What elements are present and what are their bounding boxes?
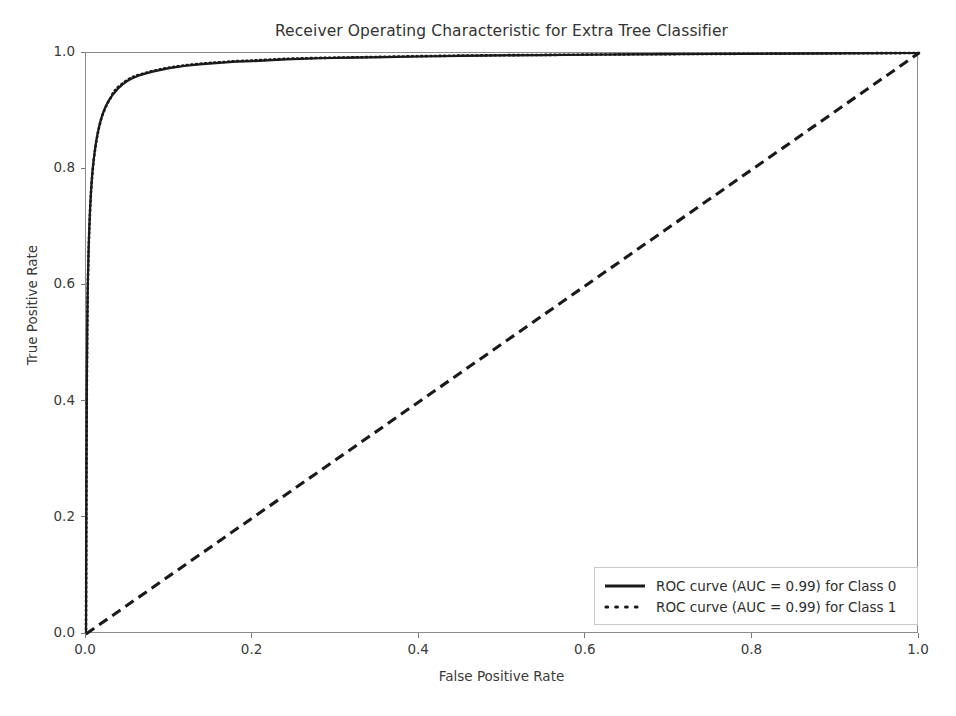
y-tick-mark: [81, 168, 86, 169]
x-tick-mark: [418, 633, 419, 638]
y-tick-mark: [81, 52, 86, 53]
chance-diagonal-group: [86, 53, 919, 634]
x-tick-label: 0.2: [222, 641, 282, 657]
chart-title: Receiver Operating Characteristic for Ex…: [85, 22, 918, 40]
y-tick-label: 0.2: [19, 508, 75, 524]
x-tick-mark: [751, 633, 752, 638]
x-tick-label: 0.8: [721, 641, 781, 657]
x-tick-label: 0.6: [555, 641, 615, 657]
x-tick-mark: [918, 633, 919, 638]
plot-axes-frame: [85, 52, 918, 633]
x-tick-mark: [584, 633, 585, 638]
legend-label-class-0: ROC curve (AUC = 0.99) for Class 0: [656, 578, 896, 594]
y-tick-label: 0.8: [19, 159, 75, 175]
plot-canvas: [86, 53, 919, 634]
legend-label-class-1: ROC curve (AUC = 0.99) for Class 1: [656, 599, 896, 615]
x-tick-label: 1.0: [888, 641, 948, 657]
y-tick-mark: [81, 400, 86, 401]
roc-chart-figure: Receiver Operating Characteristic for Ex…: [0, 0, 956, 716]
chart-legend: ROC curve (AUC = 0.99) for Class 0 ROC c…: [594, 567, 918, 625]
x-tick-mark: [251, 633, 252, 638]
legend-item-class-0: ROC curve (AUC = 0.99) for Class 0: [604, 575, 908, 596]
y-axis-label: True Positive Rate: [24, 155, 40, 455]
legend-swatch-solid-icon: [604, 579, 646, 593]
y-tick-label: 0.6: [19, 275, 75, 291]
y-tick-label: 1.0: [19, 43, 75, 59]
legend-swatch-dotted-icon: [604, 600, 646, 614]
y-tick-mark: [81, 284, 86, 285]
x-tick-label: 0.4: [388, 641, 448, 657]
y-tick-mark: [81, 633, 86, 634]
chance-diagonal-line: [86, 53, 919, 634]
x-axis-label: False Positive Rate: [85, 668, 918, 684]
y-tick-label: 0.4: [19, 392, 75, 408]
x-tick-mark: [85, 633, 86, 638]
x-tick-label: 0.0: [55, 641, 115, 657]
y-tick-label: 0.0: [19, 624, 75, 640]
y-tick-mark: [81, 516, 86, 517]
legend-item-class-1: ROC curve (AUC = 0.99) for Class 1: [604, 596, 908, 617]
